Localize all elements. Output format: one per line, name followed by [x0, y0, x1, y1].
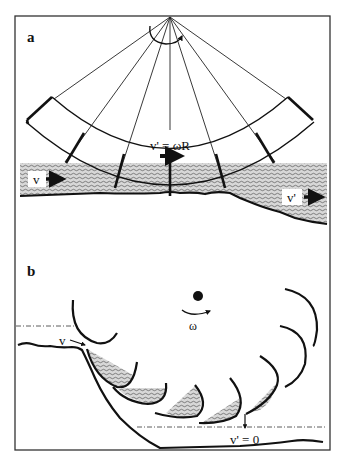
- panel-b: b ω v: [16, 263, 325, 448]
- panel-a: a: [20, 17, 327, 224]
- omega-rotation-arrow-icon: [182, 310, 210, 314]
- bucket-water-6: [248, 384, 276, 413]
- angular-velocity-label: ω: [189, 319, 197, 333]
- inflow-velocity-label-b: v: [59, 333, 66, 348]
- blade-velocity-label: v' = ωR: [150, 138, 190, 153]
- water-wheel-figure: a: [0, 0, 345, 462]
- figure-frame: [15, 16, 330, 450]
- panel-a-letter: a: [27, 29, 35, 45]
- outflow-velocity-label: v': [287, 190, 296, 205]
- bucket-empty-7: [280, 326, 306, 387]
- bucket-empty-1: [73, 300, 117, 343]
- wheel-hub-dot: [193, 291, 203, 301]
- terrain-profile: [18, 343, 323, 448]
- panel-b-letter: b: [27, 263, 35, 279]
- inflow-arrow-icon-b: [70, 340, 85, 345]
- bucket-water-5: [203, 398, 240, 423]
- inflow-velocity-label: v: [33, 172, 40, 187]
- wheel-spokes: [54, 17, 286, 187]
- outflow-velocity-label-b: v' = 0: [230, 432, 259, 447]
- bucket-6: [246, 356, 278, 414]
- bucket-water-4: [166, 386, 201, 417]
